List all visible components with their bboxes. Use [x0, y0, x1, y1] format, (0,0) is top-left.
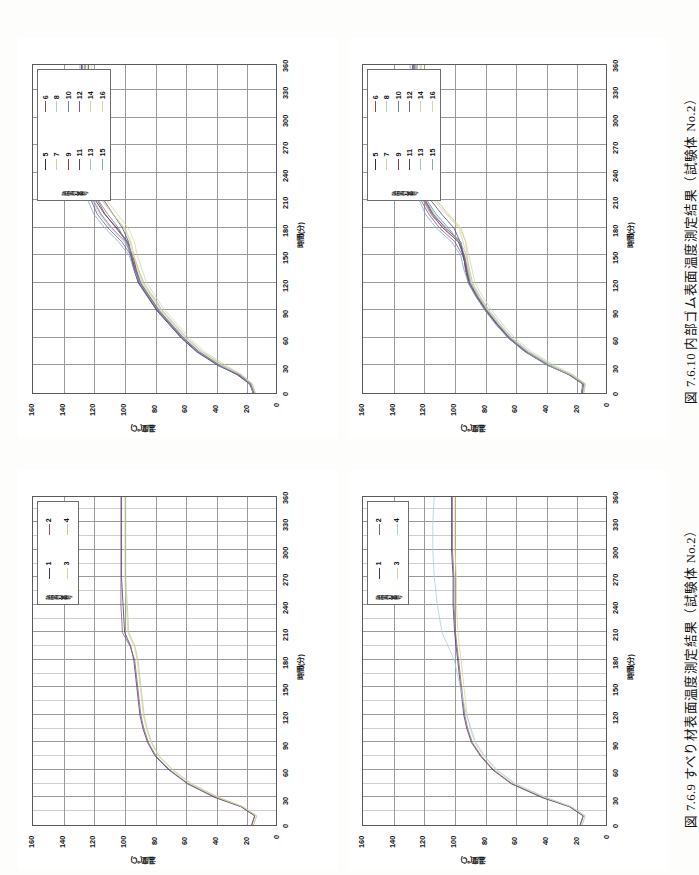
legend-swatch-15: [432, 159, 433, 170]
ytick: 140: [58, 836, 67, 848]
legend-swatch-14: [90, 101, 91, 112]
legend-title: 熱電対番号: [370, 190, 438, 197]
series-2: [452, 496, 583, 825]
series-14: [420, 64, 585, 393]
xtick: 90: [611, 742, 620, 750]
xtick: 360: [611, 492, 620, 504]
xtick: 150: [611, 252, 620, 264]
legend-label: 9: [395, 153, 402, 157]
legend-item: 4: [62, 518, 73, 535]
legend-label: 10: [65, 91, 72, 99]
xtick: 180: [611, 657, 620, 669]
ytick: 100: [449, 404, 458, 416]
legend-swatch-6: [375, 101, 376, 112]
xtick: 210: [281, 197, 290, 209]
legend-swatch-1: [379, 568, 380, 579]
legend-item: 5: [370, 149, 381, 170]
legend-7-6-9: 熱電対番号 1 3: [367, 501, 409, 605]
legend-item: 12: [404, 91, 415, 112]
legend-label: 13: [417, 149, 424, 157]
xtick: 300: [281, 547, 290, 559]
legend-label: 2: [375, 518, 382, 522]
x-axis-label: 時間(分): [294, 654, 305, 680]
legend-swatch-9: [68, 159, 69, 170]
ytick: 0: [602, 835, 611, 839]
xtick: 360: [281, 60, 290, 72]
legend-item: 15: [427, 149, 438, 170]
ytick: 140: [58, 404, 67, 416]
legend-item: 8: [51, 91, 62, 112]
ytick: 80: [150, 837, 159, 845]
legend-swatch-10: [398, 101, 399, 112]
legend-item: 9: [393, 149, 404, 170]
xtick: 330: [611, 519, 620, 531]
legend-label: 3: [393, 562, 400, 566]
ytick: 0: [602, 403, 611, 407]
legend-item: 16: [427, 91, 438, 112]
figure-caption-7-6-10: 図 7.6.10 内部ゴム表面温度測定結果（試験体 No.2）: [680, 92, 699, 404]
y-axis-label: 温度(℃): [131, 424, 157, 435]
xtick: 30: [281, 365, 290, 373]
legend-item: 11: [74, 149, 85, 170]
legend-item: 10: [63, 91, 74, 112]
legend-swatch-4: [67, 524, 68, 535]
xtick: 180: [611, 225, 620, 237]
legend-swatch-11: [79, 159, 80, 170]
ytick: 160: [27, 836, 36, 848]
figure-caption-7-6-9: 図 7.6.9 すべり材表面温度測定結果（試験体 No.2）: [680, 524, 699, 828]
figure-7-6-10-body: 熱電対番号 5 7: [348, 38, 668, 438]
legend-swatch-5: [375, 159, 376, 170]
legend-item: 6: [370, 91, 381, 112]
xtick: 120: [281, 712, 290, 724]
legend-swatch-8: [386, 101, 387, 112]
ytick: 20: [242, 405, 251, 413]
xtick: 210: [611, 197, 620, 209]
xtick: 120: [611, 280, 620, 292]
legend-swatch-12: [79, 101, 80, 112]
xtick: 0: [281, 392, 290, 396]
legend-swatch-7: [386, 159, 387, 170]
ytick: 120: [418, 836, 427, 848]
legend-swatch-13: [420, 159, 421, 170]
xtick: 60: [281, 769, 290, 777]
legend-swatch-1: [49, 568, 50, 579]
legend-label: 16: [429, 91, 436, 99]
ytick: 160: [357, 836, 366, 848]
legend-swatch-13: [90, 159, 91, 170]
series-1: [452, 496, 584, 825]
legend-item: 7: [51, 149, 62, 170]
legend-label: 5: [372, 153, 379, 157]
xtick: 150: [611, 684, 620, 696]
ytick: 140: [388, 404, 397, 416]
x-axis-label: 時間(分): [624, 222, 635, 248]
legend-label: 5: [42, 153, 49, 157]
ytick: 20: [572, 837, 581, 845]
legend-swatch-8: [56, 101, 57, 112]
legend-label: 6: [42, 95, 49, 99]
xtick: 330: [611, 87, 620, 99]
legend-item: 9: [63, 149, 74, 170]
legend-item: 11: [404, 149, 415, 170]
legend-swatch-16: [102, 101, 103, 112]
xtick: 60: [611, 337, 620, 345]
xtick: 90: [281, 310, 290, 318]
series-4: [433, 496, 585, 825]
legend-label: 9: [65, 153, 72, 157]
xtick: 360: [281, 492, 290, 504]
ytick: 40: [211, 405, 220, 413]
legend-item: 14: [415, 91, 426, 112]
xtick: 0: [611, 392, 620, 396]
legend-label: 11: [76, 149, 83, 157]
legend-item: 3: [62, 562, 73, 579]
xtick: 90: [281, 742, 290, 750]
legend-label: 4: [63, 518, 70, 522]
ytick: 40: [541, 837, 550, 845]
xtick: 330: [281, 519, 290, 531]
xtick: 270: [281, 142, 290, 154]
legend-label: 8: [383, 95, 390, 99]
xtick: 270: [281, 574, 290, 586]
figure-7-6-9-body: 熱電対番号 1 3: [348, 470, 668, 870]
legend-swatch-3: [397, 568, 398, 579]
ytick: 20: [572, 405, 581, 413]
